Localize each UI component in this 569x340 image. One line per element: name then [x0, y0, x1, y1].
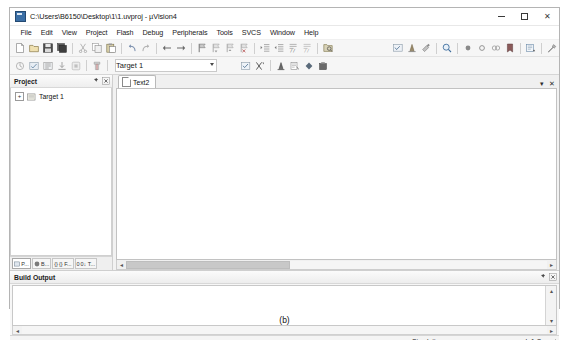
build-icon[interactable]: [28, 60, 40, 72]
configure-icon[interactable]: [546, 42, 558, 54]
sidebar-item-books-label: B...: [41, 261, 49, 267]
project-tree[interactable]: + Target 1: [10, 88, 112, 256]
build-output-hscrollbar[interactable]: ◂ ▸: [12, 326, 557, 335]
multi-project-icon[interactable]: [317, 60, 329, 72]
scroll-right-icon[interactable]: ▸: [547, 261, 556, 269]
batch-build-icon[interactable]: [420, 42, 432, 54]
scroll-right-icon[interactable]: ▸: [547, 326, 556, 334]
project-panel-buttons: [91, 76, 110, 85]
editor-hscrollbar[interactable]: ◂ ▸: [116, 260, 557, 270]
magnifier-icon[interactable]: [441, 42, 453, 54]
start-debug-session-icon[interactable]: [91, 60, 103, 72]
build-target-icon[interactable]: [392, 42, 404, 54]
build-output-hscroll-track[interactable]: [22, 326, 547, 334]
target-options-icon[interactable]: [525, 42, 537, 54]
bookmark-toggle-icon[interactable]: [196, 42, 208, 54]
tree-node-target[interactable]: + Target 1: [11, 88, 111, 101]
breakpoints-kill-icon[interactable]: [490, 42, 502, 54]
breakpoint-disable-icon[interactable]: [476, 42, 488, 54]
translate-icon[interactable]: [14, 60, 26, 72]
rebuild-all-icon[interactable]: [406, 42, 418, 54]
sidebar-item-books[interactable]: B...: [32, 258, 51, 269]
target-options-button-icon[interactable]: [240, 60, 252, 72]
sidebar-item-project[interactable]: P...: [12, 258, 31, 269]
auto-hide-pin-icon[interactable]: [538, 272, 546, 281]
save-file-icon[interactable]: [42, 42, 54, 54]
toolbar-separator: [436, 43, 437, 54]
sidebar-item-functions[interactable]: {} {} F...: [52, 258, 73, 269]
find-in-files-icon[interactable]: [322, 42, 334, 54]
tree-expander-icon[interactable]: +: [15, 92, 24, 101]
close-icon[interactable]: [549, 272, 557, 281]
file-toolbar-group: [13, 42, 69, 54]
cut-icon[interactable]: [77, 42, 89, 54]
close-icon[interactable]: ✕: [549, 80, 555, 87]
chevron-down-icon: [210, 63, 214, 66]
redo-icon[interactable]: [140, 42, 152, 54]
outdent-icon[interactable]: [273, 42, 285, 54]
maximize-button[interactable]: [513, 8, 536, 25]
editor-text-surface[interactable]: [116, 88, 557, 260]
undo-redo-group: [125, 42, 153, 54]
uncomment-icon[interactable]: //: [301, 42, 313, 54]
editor-hscroll-track[interactable]: [126, 261, 547, 269]
bookmark-clear-icon[interactable]: [238, 42, 250, 54]
sidebar-item-project-label: P...: [21, 261, 29, 267]
copy-icon[interactable]: [91, 42, 103, 54]
menu-item-peripherals[interactable]: Peripherals: [168, 28, 212, 37]
menu-bar: File Edit View Project Flash Debug Perip…: [10, 26, 559, 40]
bookmark-next-icon[interactable]: [224, 42, 236, 54]
svg-text://: //: [290, 48, 296, 53]
save-all-icon[interactable]: [56, 42, 68, 54]
scroll-left-icon[interactable]: ◂: [13, 326, 22, 334]
menu-item-debug[interactable]: Debug: [138, 28, 168, 37]
undo-icon[interactable]: [126, 42, 138, 54]
close-button[interactable]: ✕: [536, 8, 559, 25]
menu-item-window[interactable]: Window: [265, 28, 299, 37]
menu-item-file[interactable]: File: [16, 28, 36, 37]
menu-item-help[interactable]: Help: [299, 28, 322, 37]
build-right-group: [391, 42, 433, 54]
editor-hscroll-thumb[interactable]: [126, 261, 290, 269]
toolbar-separator: [317, 43, 318, 54]
paste-icon[interactable]: [105, 42, 117, 54]
scroll-up-icon[interactable]: ▴: [546, 286, 556, 295]
target-folder-icon: [27, 93, 36, 101]
menu-item-project[interactable]: Project: [81, 28, 112, 37]
scroll-left-icon[interactable]: ◂: [117, 261, 126, 269]
sidebar-item-templates[interactable]: 0 0↓ T...: [75, 258, 98, 269]
bookmark-prev-icon[interactable]: [210, 42, 222, 54]
menu-item-flash[interactable]: Flash: [112, 28, 138, 37]
sidebar-item-functions-label: {} F...: [59, 261, 72, 267]
rebuild-icon[interactable]: [42, 60, 54, 72]
comment-icon[interactable]: //: [287, 42, 299, 54]
bookmark-red-icon[interactable]: [504, 42, 516, 54]
menu-item-edit[interactable]: Edit: [36, 28, 57, 37]
build-output-panel: Build Output ▴ ▾ ◂: [10, 270, 559, 335]
window-controls: ✕: [490, 8, 559, 25]
window-title: C:\Users\B6150\Desktop\1\1.uvproj - µVis…: [30, 12, 177, 21]
stop-build-icon[interactable]: [70, 60, 82, 72]
menu-item-tools[interactable]: Tools: [212, 28, 237, 37]
new-project-icon[interactable]: [275, 60, 287, 72]
navigate-forward-icon[interactable]: [175, 42, 187, 54]
bookmark-diamond-icon[interactable]: [303, 60, 315, 72]
menu-item-view[interactable]: View: [57, 28, 81, 37]
editor-tab-text2[interactable]: Text2: [118, 75, 156, 88]
download-icon[interactable]: [56, 60, 68, 72]
menu-item-svcs[interactable]: SVCS: [237, 28, 265, 37]
open-file-icon[interactable]: [28, 42, 40, 54]
breakpoint-icon[interactable]: [462, 42, 474, 54]
target-combo[interactable]: Target 1: [115, 59, 217, 72]
chevron-down-icon[interactable]: ▾: [540, 80, 544, 87]
indent-icon[interactable]: [259, 42, 271, 54]
minimize-button[interactable]: [490, 8, 513, 25]
close-icon[interactable]: [102, 76, 110, 85]
target-combo-value: Target 1: [116, 61, 143, 70]
package-installer-icon[interactable]: [289, 60, 301, 72]
navigate-back-icon[interactable]: [161, 42, 173, 54]
new-file-icon[interactable]: [14, 42, 26, 54]
templates-tab-icon: 0: [77, 261, 80, 267]
manage-components-icon[interactable]: [254, 60, 266, 72]
auto-hide-pin-icon[interactable]: [91, 76, 99, 85]
